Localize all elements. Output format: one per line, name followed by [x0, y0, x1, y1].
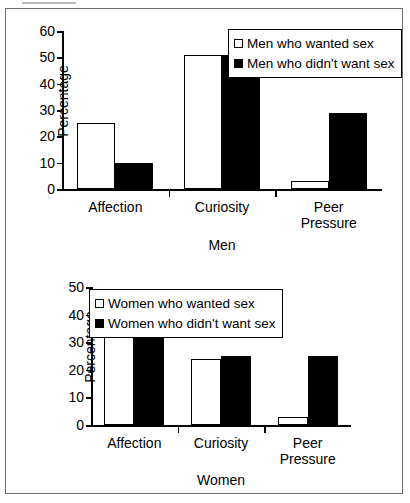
legend-swatch-filled-icon — [95, 319, 104, 328]
bar — [191, 359, 221, 425]
panel-title-men: Men — [208, 237, 235, 253]
legend-men: Men who wanted sex Men who didn't want s… — [228, 29, 402, 78]
x-tick-label: Affection — [88, 199, 142, 215]
chart-panel-men: 0102030405060 AffectionCuriosityPeer Pre… — [6, 9, 402, 259]
bar — [308, 356, 338, 425]
y-axis-label-men: Percentage — [55, 56, 71, 146]
y-tick — [86, 397, 91, 399]
legend-item-men-wanted: Men who wanted sex — [234, 34, 394, 54]
x-tick-label: Affection — [107, 435, 161, 451]
y-tick-label: 0 — [47, 182, 55, 196]
y-tick — [57, 189, 62, 191]
y-tick-label: 20 — [39, 129, 55, 143]
chart-panel-women: 01020304050 AffectionCuriosityPeer Press… — [6, 259, 402, 492]
bar — [291, 181, 329, 189]
y-tick-label: 10 — [39, 156, 55, 170]
legend-women: Women who wanted sex Women who didn't wa… — [89, 289, 283, 338]
panel-title-women: Women — [197, 472, 245, 488]
x-tick — [178, 427, 180, 433]
x-tick-label: Curiosity — [194, 435, 248, 451]
legend-item-men-didnt-want: Men who didn't want sex — [234, 54, 394, 74]
y-tick — [57, 163, 62, 165]
y-tick-label: 40 — [39, 77, 55, 91]
x-tick — [264, 427, 266, 433]
legend-swatch-open-icon — [95, 299, 104, 308]
y-tick — [86, 425, 91, 427]
legend-item-women-didnt-want: Women who didn't want sex — [95, 314, 275, 334]
bar — [329, 113, 367, 189]
figure-frame: 0102030405060 AffectionCuriosityPeer Pre… — [5, 8, 403, 494]
bar — [77, 123, 115, 189]
y-tick-label: 50 — [68, 280, 84, 294]
x-tick-label: Curiosity — [195, 199, 249, 215]
x-tick — [169, 191, 171, 197]
legend-swatch-open-icon — [234, 39, 243, 48]
y-tick-label: 60 — [39, 24, 55, 38]
x-tick — [275, 191, 277, 197]
scan-artifact — [22, 2, 76, 4]
y-tick-label: 10 — [68, 390, 84, 404]
legend-swatch-filled-icon — [234, 59, 243, 68]
legend-label-men-didnt-want: Men who didn't want sex — [247, 54, 394, 74]
x-axis-men — [62, 189, 382, 191]
x-tick-label: Peer Pressure — [280, 435, 336, 467]
y-tick-label: 50 — [39, 50, 55, 64]
y-tick-label: 30 — [39, 103, 55, 117]
legend-label-women-wanted: Women who wanted sex — [108, 294, 255, 314]
legend-label-women-didnt-want: Women who didn't want sex — [108, 314, 275, 334]
bar — [184, 55, 222, 189]
bar — [221, 356, 251, 425]
x-axis-women — [91, 425, 351, 427]
legend-label-men-wanted: Men who wanted sex — [247, 34, 374, 54]
x-tick-label: Peer Pressure — [301, 199, 357, 231]
legend-item-women-wanted: Women who wanted sex — [95, 294, 275, 314]
bar — [278, 417, 308, 425]
y-tick — [57, 31, 62, 33]
bar — [115, 163, 153, 189]
y-tick-label: 0 — [76, 418, 84, 432]
